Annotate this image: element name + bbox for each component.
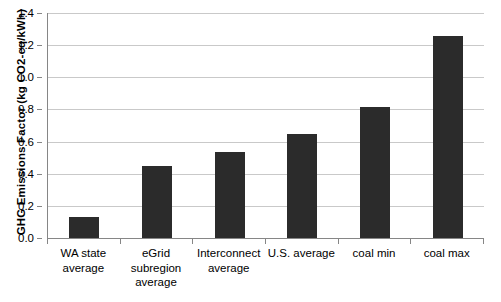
x-tick-mark [192,239,193,244]
x-category-label-line: U.S. average [266,246,337,261]
x-tick-mark [47,239,48,244]
y-tick-label: 0.4 [0,168,34,180]
x-category-label-line: Interconnect [193,246,264,261]
x-tick-mark [265,239,266,244]
bar [287,134,317,238]
bar-slot [48,13,121,238]
y-tick-label: 1.4 [0,7,34,19]
y-tick-mark [37,142,42,143]
y-tick-mark [37,13,42,14]
x-tick-mark [410,239,411,244]
y-tick-mark [37,238,42,239]
y-tick-mark [37,174,42,175]
x-category-label: WA stateaverage [47,246,120,290]
x-category-label: Interconnectaverage [192,246,265,290]
x-category-label: U.S. average [265,246,338,290]
y-tick-label: 1.0 [0,71,34,83]
y-tick-mark [37,109,42,110]
bars-container [48,13,484,238]
x-tick-mark [483,239,484,244]
plot-area [47,13,484,239]
x-category-label: coal min [338,246,411,290]
y-tick-mark [37,45,42,46]
bar [69,217,99,238]
bar-slot [266,13,339,238]
x-category-label-line: subregion [121,261,192,276]
x-category-label: eGridsubregionaverage [120,246,193,290]
x-category-label-line: average [121,275,192,290]
y-tick-label: 1.2 [0,39,34,51]
x-category-label-line: coal max [411,246,482,261]
bar [142,166,172,238]
ghg-emissions-bar-chart: GHG Emissions Factor (kg CO2-eq/kWh) 0.0… [0,0,501,302]
x-tick-mark [120,239,121,244]
x-category-label-line: average [48,261,119,276]
bar-slot [121,13,194,238]
y-tick-mark [37,77,42,78]
y-tick-label: 0.2 [0,200,34,212]
x-axis-category-labels: WA stateaverageeGridsubregionaverageInte… [47,246,483,290]
y-axis-tick-labels: 0.00.20.40.60.81.01.21.4 [0,13,42,238]
bar-slot [339,13,412,238]
bar-slot [411,13,484,238]
x-category-label: coal max [410,246,483,290]
x-category-label-line: WA state [48,246,119,261]
bar [433,36,463,239]
bar [215,152,245,238]
y-tick-label: 0.6 [0,136,34,148]
x-tick-mark [338,239,339,244]
y-tick-label: 0.8 [0,103,34,115]
x-category-label-line: average [193,261,264,276]
x-category-label-line: coal min [339,246,410,261]
x-axis-tick-marks [47,239,484,244]
x-category-label-line: eGrid [121,246,192,261]
y-tick-label: 0.0 [0,232,34,244]
bar-slot [193,13,266,238]
y-tick-mark [37,206,42,207]
bar [360,107,390,238]
